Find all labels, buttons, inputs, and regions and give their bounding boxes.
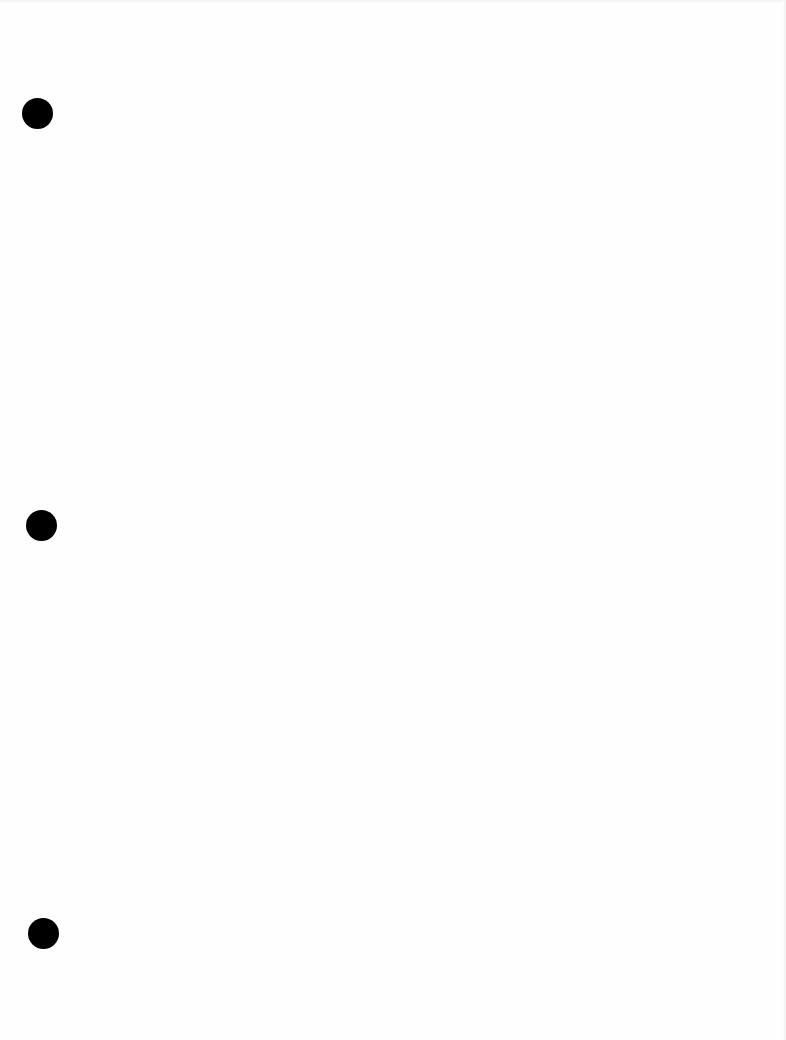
punch-hole-middle — [26, 510, 57, 541]
punch-hole-bottom — [28, 918, 59, 949]
page-top-edge — [0, 0, 786, 3]
blank-paper-page — [0, 0, 786, 1040]
punch-hole-top — [22, 98, 53, 129]
